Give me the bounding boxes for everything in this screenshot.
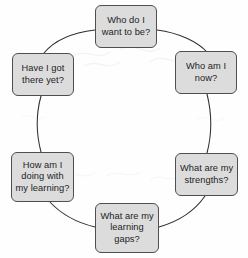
connector-upper-left-to-top [44,30,95,53]
node-what-are-my-learning-gaps[interactable]: What are my learning gaps? [95,203,159,253]
connector-top-to-upper-right [157,30,206,51]
connector-bottom-to-lower-left [49,201,95,227]
node-how-am-i-doing-with-my-learning[interactable]: How am I doing with my learning? [11,152,74,202]
connector-upper-right-to-lower-right [207,94,211,153]
node-what-are-my-strengths[interactable]: What are my strengths? [175,153,238,196]
node-who-do-i-want-to-be[interactable]: Who do I want to be? [95,5,157,48]
connector-lower-left-to-upper-left [37,96,41,152]
diagram-canvas: Who do I want to be? Who am I now? What … [0,0,248,258]
node-who-am-i-now[interactable]: Who am I now? [175,51,237,94]
node-have-i-got-there-yet[interactable]: Have I got there yet? [12,53,74,96]
connector-lower-right-to-bottom [159,196,205,227]
